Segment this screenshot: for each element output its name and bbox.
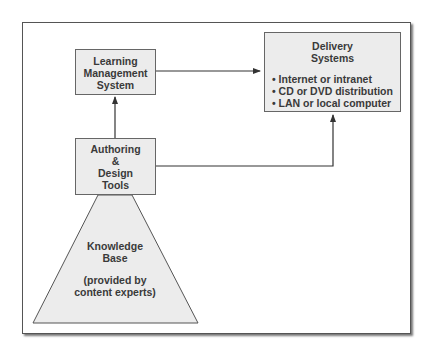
delivery-systems-box: Delivery Systems • Internet or intranet …	[264, 32, 401, 112]
delivery-list-item: • Internet or intranet	[272, 73, 400, 85]
authoring-tools-box: Authoring & Design Tools	[75, 138, 156, 195]
delivery-title-line: Delivery	[265, 40, 400, 52]
kb-subtitle: (provided by content experts)	[55, 274, 175, 298]
delivery-list-item: • CD or DVD distribution	[272, 85, 400, 97]
authoring-label-line: &	[76, 155, 155, 167]
delivery-title-line: Systems	[265, 52, 400, 64]
delivery-list-item: • LAN or local computer	[272, 97, 400, 109]
lms-label-line: System	[76, 79, 155, 91]
delivery-list: • Internet or intranet • CD or DVD distr…	[265, 73, 400, 109]
kb-title-line: Base	[55, 252, 175, 264]
authoring-label-line: Authoring	[76, 143, 155, 155]
lms-label-line: Management	[76, 67, 155, 79]
arrow-authoring-to-delivery	[156, 115, 333, 166]
kb-title-line: Knowledge	[55, 240, 175, 252]
lms-box: Learning Management System	[75, 49, 156, 95]
authoring-label-line: Tools	[76, 179, 155, 191]
lms-label-line: Learning	[76, 55, 155, 67]
authoring-label-line: Design	[76, 167, 155, 179]
kb-subtitle-line: (provided by	[55, 274, 175, 286]
kb-subtitle-line: content experts)	[55, 286, 175, 298]
knowledge-base-label: Knowledge Base (provided by content expe…	[55, 240, 175, 298]
